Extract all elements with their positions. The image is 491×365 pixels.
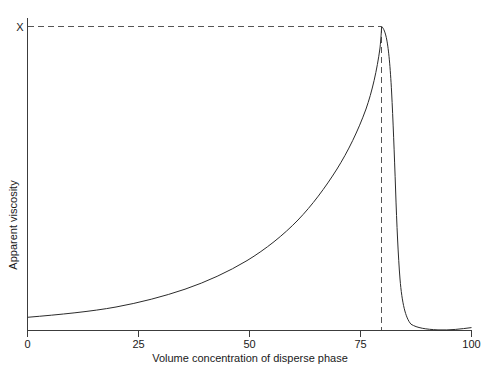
chart-figure: X Apparent viscosity 0 25 50 75 100 Volu… xyxy=(0,0,491,365)
y-axis-peak-marker-label: X xyxy=(16,21,24,33)
viscosity-concentration-chart: X Apparent viscosity 0 25 50 75 100 Volu… xyxy=(0,0,491,365)
y-axis-title: Apparent viscosity xyxy=(7,180,19,270)
apparent-viscosity-curve xyxy=(28,26,472,330)
x-axis-title: Volume concentration of disperse phase xyxy=(152,352,348,364)
x-tick-label-0: 0 xyxy=(24,338,30,350)
x-tick-label-100: 100 xyxy=(462,338,480,350)
peak-guides xyxy=(28,27,382,331)
x-tick-label-75: 75 xyxy=(354,338,366,350)
axes-group xyxy=(28,18,473,331)
x-tick-label-50: 50 xyxy=(243,338,255,350)
x-axis-ticks xyxy=(28,331,472,338)
x-tick-label-25: 25 xyxy=(132,338,144,350)
